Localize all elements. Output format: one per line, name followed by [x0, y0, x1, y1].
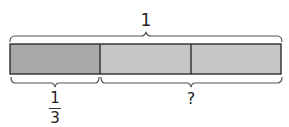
bottom-right-brace: [101, 77, 282, 87]
bottom-left-brace: [11, 77, 99, 87]
fraction-label: 1 3: [48, 91, 62, 126]
fraction-denominator: 3: [50, 111, 60, 126]
segment-2: [100, 44, 191, 74]
fraction-numerator: 1: [50, 91, 60, 106]
segment-3: [191, 44, 281, 74]
whole-label: 1: [140, 12, 152, 29]
top-brace: [10, 32, 282, 42]
segment-1-shaded: [10, 44, 100, 74]
unknown-label: ?: [184, 91, 198, 107]
